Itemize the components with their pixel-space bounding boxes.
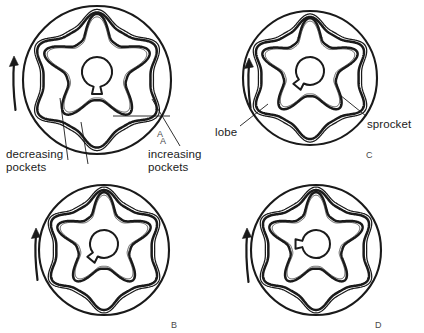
annotation-sprocket: sprocket bbox=[367, 118, 411, 131]
annotation-lobe: lobe bbox=[215, 126, 237, 139]
annotation-increasing-pockets: increasing pockets bbox=[148, 148, 201, 174]
rotation-arrow-icon bbox=[9, 56, 18, 110]
panel-b bbox=[31, 185, 169, 315]
annotation-decreasing-pockets: decreasing pockets bbox=[6, 148, 63, 174]
panel-d bbox=[242, 185, 381, 315]
gerotor-diagram-artwork bbox=[0, 0, 424, 333]
panel-letter-a: A bbox=[160, 136, 166, 146]
panel-letter-d: D bbox=[375, 320, 382, 330]
panel-letter-c: C bbox=[366, 150, 373, 160]
diagram-canvas: decreasing pockets increasing pockets A … bbox=[0, 0, 424, 333]
panel-a bbox=[9, 6, 171, 154]
rotation-arrow-icon bbox=[242, 228, 251, 282]
panel-letter-b: B bbox=[171, 320, 177, 330]
panel-c bbox=[243, 11, 377, 145]
